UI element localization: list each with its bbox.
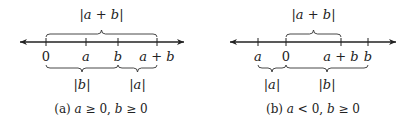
- bottom-brace-label: |a|: [129, 77, 146, 92]
- bottom-brace: [258, 65, 286, 72]
- bottom-brace-label: |b|: [73, 77, 90, 92]
- tick-label: a: [82, 49, 90, 64]
- top-brace: [286, 30, 341, 37]
- top-brace-label: |a + b|: [291, 7, 335, 22]
- caption-b: (b) a < 0, b ≥ 0: [266, 102, 360, 116]
- tick-label: b: [364, 49, 372, 64]
- top-brace: [46, 30, 157, 37]
- tick-label: 0: [42, 49, 50, 64]
- tick-label: a: [254, 49, 262, 64]
- tick-label: 0: [282, 49, 290, 64]
- tick-label: a + b: [323, 49, 358, 64]
- tick-label: a + b: [139, 49, 174, 64]
- diagram-b: a0a + bb |a + b||a||b| (b) a < 0, b ≥ 0: [230, 7, 396, 116]
- top-brace-label: |a + b|: [79, 7, 123, 22]
- number-line-figure: 0aba + b |a + b||b||a| (a) a ≥ 0, b ≥ 0 …: [0, 0, 412, 124]
- bottom-brace-label: |a|: [264, 77, 281, 92]
- tick-label: b: [114, 49, 122, 64]
- bottom-brace: [286, 65, 368, 72]
- bottom-brace: [46, 65, 118, 72]
- caption-a: (a) a ≥ 0, b ≥ 0: [54, 102, 147, 116]
- bottom-brace: [118, 65, 157, 72]
- diagram-a: 0aba + b |a + b||b||a| (a) a ≥ 0, b ≥ 0: [20, 7, 184, 116]
- bottom-brace-label: |b|: [318, 77, 335, 92]
